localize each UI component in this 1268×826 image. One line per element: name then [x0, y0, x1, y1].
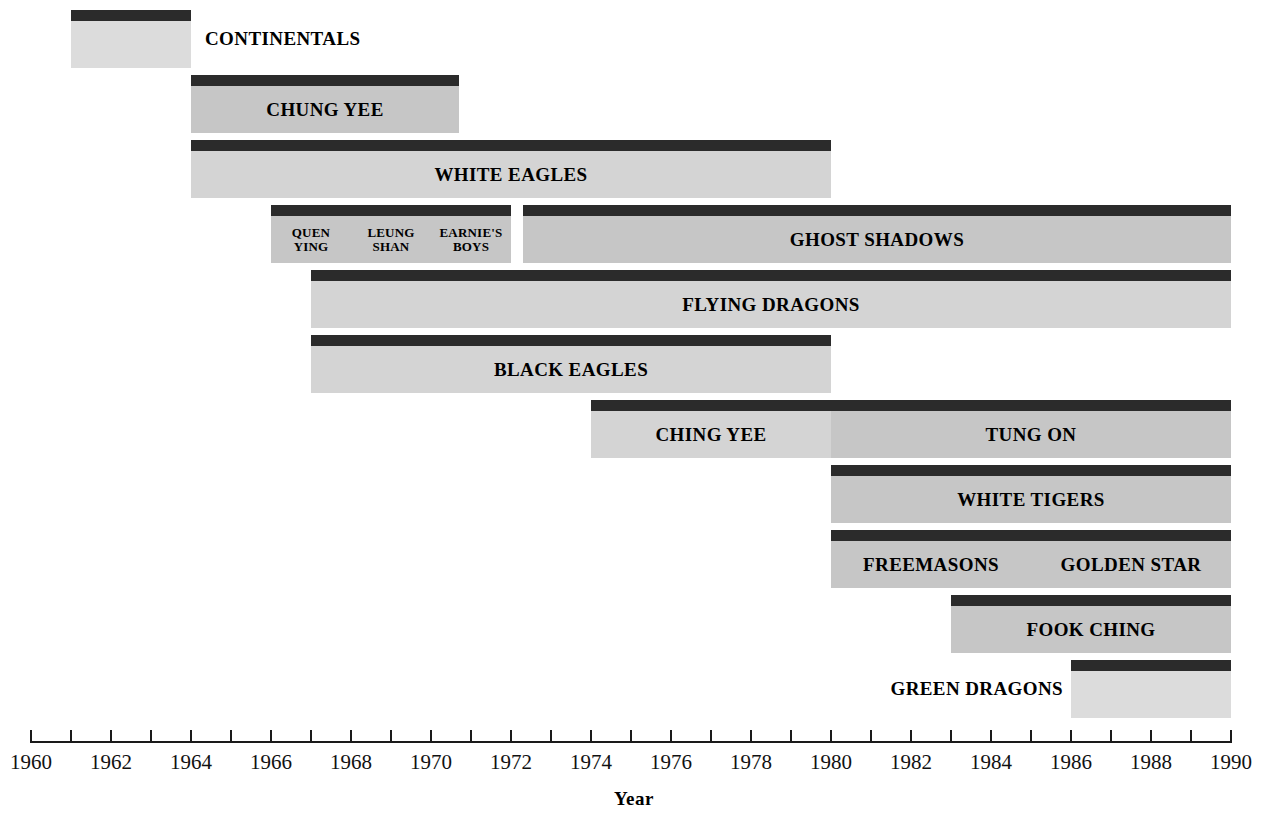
timeline-bar-body: [1071, 671, 1231, 718]
x-axis-tick-label: 1962: [90, 750, 132, 775]
timeline-bar-cap: [1031, 530, 1231, 541]
x-axis-tick: [110, 730, 112, 743]
x-axis-tick: [550, 730, 552, 743]
x-axis-title: Year: [0, 788, 1268, 810]
timeline-bar[interactable]: CHUNG YEE: [191, 75, 459, 133]
x-axis-tick: [150, 730, 152, 743]
x-axis-tick-label: 1974: [570, 750, 612, 775]
x-axis-tick: [470, 730, 472, 743]
x-axis-tick: [990, 730, 992, 743]
x-axis-tick: [790, 730, 792, 743]
x-axis-tick-label: 1990: [1210, 750, 1252, 775]
x-axis-tick-label: 1970: [410, 750, 452, 775]
timeline-bar-label: FREEMASONS: [831, 541, 1031, 588]
x-axis-tick-label: 1988: [1130, 750, 1172, 775]
x-axis-tick-label: 1966: [250, 750, 292, 775]
x-axis-tick-label: 1978: [730, 750, 772, 775]
x-axis-tick: [950, 730, 952, 743]
x-axis-tick: [350, 730, 352, 743]
x-axis-tick: [430, 730, 432, 743]
timeline-bar-label: QUENYING: [271, 216, 351, 263]
timeline-plot-area: CONTINENTALSCHUNG YEEWHITE EAGLESQUENYIN…: [0, 0, 1268, 730]
x-axis-tick: [70, 730, 72, 743]
timeline-bar-cap: [591, 400, 831, 411]
x-axis-tick: [830, 730, 832, 743]
timeline-bar-cap: [71, 10, 191, 21]
timeline-bar[interactable]: FLYING DRAGONS: [311, 270, 1231, 328]
timeline-bar-label: GOLDEN STAR: [1031, 541, 1231, 588]
x-axis-tick: [390, 730, 392, 743]
timeline-bar-label: CHING YEE: [591, 411, 831, 458]
timeline-bar-cap: [831, 530, 1031, 541]
timeline-bar-cap: [311, 335, 831, 346]
timeline-bar[interactable]: EARNIE'SBOYS: [431, 205, 511, 263]
x-axis-tick: [510, 730, 512, 743]
gang-timeline-chart: CONTINENTALSCHUNG YEEWHITE EAGLESQUENYIN…: [0, 0, 1268, 826]
x-axis-tick-label: 1984: [970, 750, 1012, 775]
timeline-bar-cap: [351, 205, 431, 216]
timeline-bar-label: EARNIE'SBOYS: [431, 216, 511, 263]
x-axis-tick-label: 1976: [650, 750, 692, 775]
timeline-bar-label: WHITE EAGLES: [191, 151, 831, 198]
timeline-bar-label: BLACK EAGLES: [311, 346, 831, 393]
timeline-bar[interactable]: [1071, 660, 1231, 718]
timeline-bar-body: [71, 21, 191, 68]
timeline-bar[interactable]: WHITE EAGLES: [191, 140, 831, 198]
timeline-bar[interactable]: GHOST SHADOWS: [523, 205, 1231, 263]
x-axis-tick: [750, 730, 752, 743]
x-axis-tick-label: 1982: [890, 750, 932, 775]
x-axis-tick: [670, 730, 672, 743]
timeline-bar[interactable]: WHITE TIGERS: [831, 465, 1231, 523]
x-axis-tick: [1230, 730, 1232, 743]
x-axis: 1960196219641966196819701972197419761978…: [0, 730, 1268, 826]
x-axis-tick: [1190, 730, 1192, 743]
timeline-bar[interactable]: LEUNGSHAN: [351, 205, 431, 263]
timeline-bar[interactable]: TUNG ON: [831, 400, 1231, 458]
timeline-bar-cap: [191, 140, 831, 151]
timeline-bar-cap: [271, 205, 351, 216]
timeline-bar[interactable]: QUENYING: [271, 205, 351, 263]
x-axis-tick: [910, 730, 912, 743]
x-axis-tick: [270, 730, 272, 743]
x-axis-tick: [630, 730, 632, 743]
timeline-bar-label: LEUNGSHAN: [351, 216, 431, 263]
x-axis-tick: [870, 730, 872, 743]
timeline-bar-label: GHOST SHADOWS: [523, 216, 1231, 263]
timeline-bar[interactable]: FOOK CHING: [951, 595, 1231, 653]
x-axis-tick: [710, 730, 712, 743]
timeline-bar-label: CHUNG YEE: [191, 86, 459, 133]
timeline-bar[interactable]: [71, 10, 191, 68]
x-axis-tick: [1110, 730, 1112, 743]
timeline-bar[interactable]: FREEMASONS: [831, 530, 1031, 588]
timeline-bar-cap: [431, 205, 511, 216]
timeline-bar-cap: [831, 400, 1231, 411]
timeline-bar-cap: [191, 75, 459, 86]
timeline-bar-label: WHITE TIGERS: [831, 476, 1231, 523]
x-axis-tick: [1030, 730, 1032, 743]
timeline-bar-label: FOOK CHING: [951, 606, 1231, 653]
x-axis-tick-label: 1968: [330, 750, 372, 775]
x-axis-tick-label: 1964: [170, 750, 212, 775]
x-axis-tick: [230, 730, 232, 743]
x-axis-tick-label: 1972: [490, 750, 532, 775]
timeline-bar-cap: [523, 205, 1231, 216]
x-axis-tick: [590, 730, 592, 743]
timeline-bar-cap: [1071, 660, 1231, 671]
x-axis-tick: [310, 730, 312, 743]
timeline-bar-label: TUNG ON: [831, 411, 1231, 458]
x-axis-tick: [30, 730, 32, 743]
timeline-bar-label: GREEN DRAGONS: [0, 660, 1063, 718]
x-axis-tick-label: 1986: [1050, 750, 1092, 775]
timeline-bar-cap: [951, 595, 1231, 606]
timeline-bar[interactable]: GOLDEN STAR: [1031, 530, 1231, 588]
x-axis-tick-label: 1960: [10, 750, 52, 775]
x-axis-tick: [190, 730, 192, 743]
timeline-bar[interactable]: CHING YEE: [591, 400, 831, 458]
timeline-bar-label: FLYING DRAGONS: [311, 281, 1231, 328]
timeline-bar-label: CONTINENTALS: [205, 10, 360, 68]
x-axis-tick-label: 1980: [810, 750, 852, 775]
timeline-bar-cap: [831, 465, 1231, 476]
x-axis-tick: [1070, 730, 1072, 743]
timeline-bar-cap: [311, 270, 1231, 281]
timeline-bar[interactable]: BLACK EAGLES: [311, 335, 831, 393]
